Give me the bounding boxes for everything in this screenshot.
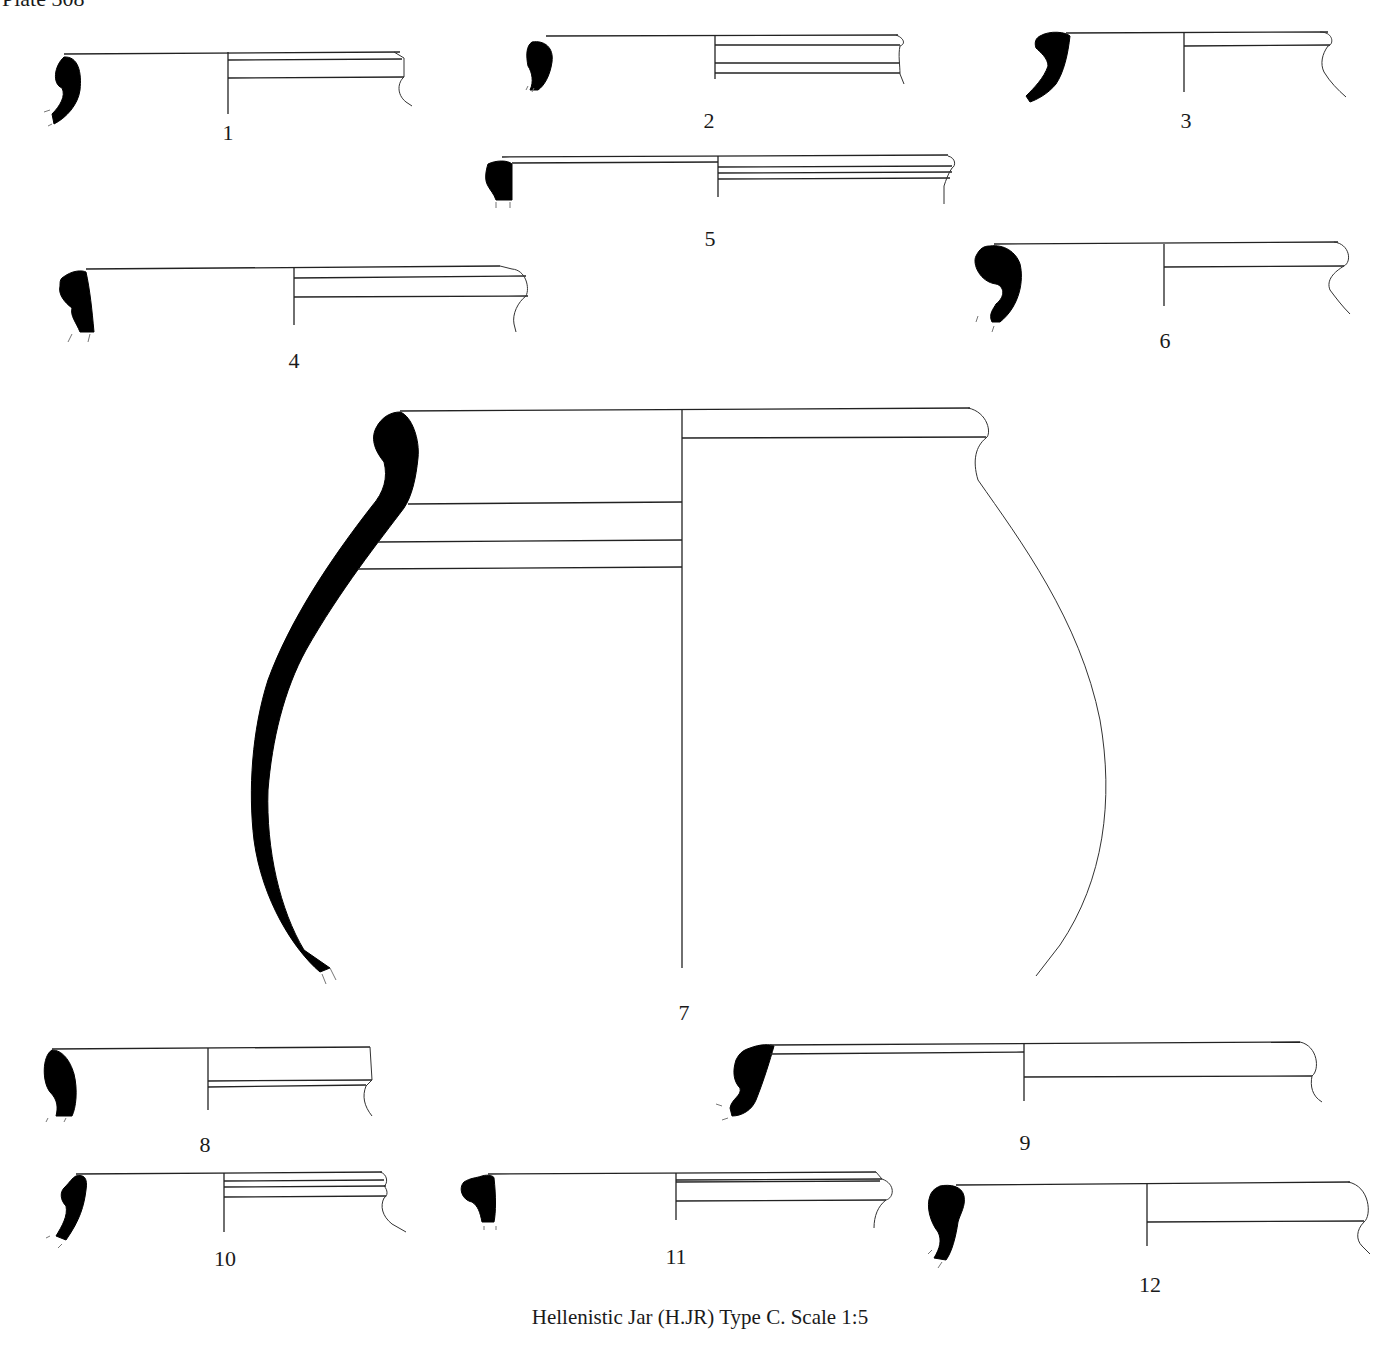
- figure-number-6: 6: [1160, 328, 1171, 354]
- figure-12-drawing: [928, 1182, 1370, 1268]
- figure-number-12: 12: [1139, 1272, 1161, 1298]
- figure-7-drawing: [251, 408, 1106, 984]
- figure-number-5: 5: [705, 226, 716, 252]
- figure-number-10: 10: [214, 1246, 236, 1272]
- figure-6-drawing: [975, 242, 1350, 332]
- plate-caption: Hellenistic Jar (H.JR) Type C. Scale 1:5: [532, 1305, 868, 1330]
- figure-number-3: 3: [1181, 108, 1192, 134]
- figure-number-7: 7: [679, 1000, 690, 1026]
- figure-8-drawing: [44, 1047, 372, 1122]
- figure-1-drawing: [44, 52, 412, 126]
- figure-11-drawing: [461, 1172, 892, 1230]
- figure-5-drawing: [486, 155, 955, 208]
- figure-3-drawing: [1026, 32, 1346, 102]
- figure-number-11: 11: [665, 1244, 686, 1270]
- figure-number-1: 1: [223, 120, 234, 146]
- figure-number-4: 4: [289, 348, 300, 374]
- figure-number-8: 8: [200, 1132, 211, 1158]
- figure-4-drawing: [60, 266, 528, 342]
- figure-10-drawing: [46, 1172, 406, 1248]
- figure-number-2: 2: [704, 108, 715, 134]
- figure-number-9: 9: [1020, 1130, 1031, 1156]
- figure-2-drawing: [526, 35, 904, 92]
- figure-9-drawing: [716, 1042, 1322, 1120]
